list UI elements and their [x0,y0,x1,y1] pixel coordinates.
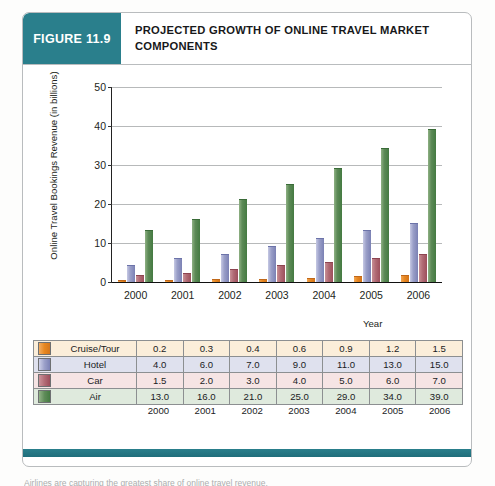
table-cell: 15.0 [416,357,463,373]
bar-air-2003 [286,184,294,283]
x-axis-tick-label: 2006 [407,289,430,301]
legend-swatch-hotel-icon [38,358,51,371]
table-year-label: 2003 [276,405,323,416]
legend-swatch-car-icon [38,374,51,387]
figure-number-label: FIGURE 11.9 [33,32,111,46]
bar-air-2006 [428,129,436,282]
bar-air-2004 [334,168,342,282]
series-label: Car [54,373,137,389]
legend-swatch-cell [34,341,55,357]
table-cell: 0.9 [323,341,370,357]
x-axis-tick-label: 2002 [218,289,241,301]
bar-hotel-2005 [363,230,371,282]
series-label: Hotel [54,357,137,373]
legend-swatch-cell [34,373,55,389]
scanned-page-background: FIGURE 11.9 PROJECTED GROWTH OF ONLINE T… [0,0,495,486]
table-cell: 13.0 [369,357,416,373]
bar-car-2006 [419,254,427,282]
table-cell: 6.0 [369,373,416,389]
figure-box: FIGURE 11.9 PROJECTED GROWTH OF ONLINE T… [22,12,472,467]
series-label: Cruise/Tour [54,341,137,357]
table-cell: 25.0 [276,389,323,405]
bar-cruise-tour-2002 [212,279,220,282]
y-axis-tick-label: 30 [94,159,106,171]
bar-hotel-2006 [410,223,418,283]
table-year-label: 2000 [135,405,182,416]
y-axis-tick-label: 10 [94,237,106,249]
legend-swatch-cruise-icon [38,342,51,355]
figure-number-tab: FIGURE 11.9 [23,13,121,64]
table-cell: 16.0 [183,389,230,405]
bar-air-2001 [192,219,200,282]
table-cell: 21.0 [230,389,277,405]
year-footer-spacer [33,405,135,416]
x-axis-tick-label: 2000 [124,289,147,301]
table-year-footer: 2000200120022003200420052006 [33,405,463,416]
bar-car-2000 [136,275,144,282]
y-axis-tick-label: 50 [94,81,106,93]
table-cell: 3.0 [230,373,277,389]
legend-swatch-cell [34,389,55,405]
bar-air-2000 [145,230,153,282]
bar-hotel-2001 [174,258,182,282]
bar-car-2003 [277,265,285,282]
series-label: Air [54,389,137,405]
bar-series-layer [112,87,442,282]
bar-group [395,87,442,282]
table-cell: 29.0 [323,389,370,405]
legend-swatch-cell [34,357,55,373]
bar-cruise-tour-2000 [118,280,126,282]
table-cell: 9.0 [276,357,323,373]
bar-group [159,87,206,282]
table-cell: 1.2 [369,341,416,357]
bar-cruise-tour-2004 [307,278,315,283]
y-axis-title: Online Travel Bookings Revenue (in billi… [48,66,59,266]
table-year-label: 2005 [369,405,416,416]
figure-title: PROJECTED GROWTH OF ONLINE TRAVEL MARKET… [135,23,459,53]
table-year-label: 2002 [229,405,276,416]
bar-group [206,87,253,282]
x-axis-title: Year [363,318,382,329]
table-cell: 0.6 [276,341,323,357]
y-axis-tick-label: 40 [94,120,106,132]
y-axis-tick-label: 0 [100,276,106,288]
bar-group [301,87,348,282]
bar-cruise-tour-2006 [401,275,409,282]
table-cell: 4.0 [276,373,323,389]
x-axis-tick-label: 2001 [171,289,194,301]
bar-car-2001 [183,273,191,282]
bar-car-2004 [325,262,333,283]
y-axis-tick-label: 20 [94,198,106,210]
table-cell: 5.0 [323,373,370,389]
table-year-label: 2006 [416,405,463,416]
bar-air-2005 [381,148,389,282]
bar-hotel-2003 [268,246,276,282]
legend-swatch-air-icon [38,390,51,403]
table-cell: 13.0 [137,389,184,405]
y-axis-tick-mark [108,282,112,283]
data-table: Cruise/Tour0.20.30.40.60.91.21.5Hotel4.0… [33,340,463,405]
bar-hotel-2002 [221,254,229,282]
table-year-label: 2001 [182,405,229,416]
table-row: Car1.52.03.04.05.06.07.0 [34,373,463,389]
table-row: Hotel4.06.07.09.011.013.015.0 [34,357,463,373]
bar-hotel-2004 [316,238,324,282]
table-cell: 2.0 [183,373,230,389]
table-cell: 34.0 [369,389,416,405]
table-cell: 7.0 [416,373,463,389]
data-table-legend: Cruise/Tour0.20.30.40.60.91.21.5Hotel4.0… [33,340,463,405]
table-cell: 0.2 [137,341,184,357]
table-cell: 39.0 [416,389,463,405]
table-cell: 11.0 [323,357,370,373]
table-cell: 0.4 [230,341,277,357]
table-year-label: 2004 [322,405,369,416]
bar-cruise-tour-2005 [354,276,362,282]
table-cell: 6.0 [183,357,230,373]
bar-cruise-tour-2003 [259,279,267,282]
chart-region: Online Travel Bookings Revenue (in billi… [23,65,471,335]
table-cell: 1.5 [416,341,463,357]
table-cell: 4.0 [137,357,184,373]
figure-bottom-rule [23,449,471,457]
bar-group [253,87,300,282]
bar-group [348,87,395,282]
